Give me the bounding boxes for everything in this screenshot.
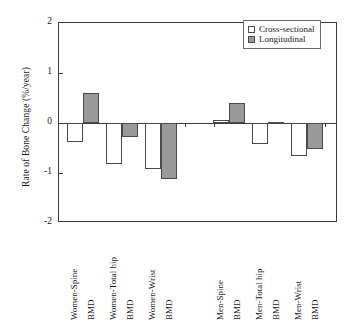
bar-longitudinal-4: [268, 122, 284, 124]
bar-cross-sectional-3: [213, 120, 229, 123]
x-category-label: BMD: [165, 299, 174, 320]
x-tick-mark: [185, 123, 186, 127]
y-tick-label: 1: [0, 67, 52, 77]
bar-cross-sectional-5: [291, 123, 307, 156]
x-category-label: BMD: [126, 299, 135, 320]
x-tick-mark: [214, 123, 215, 127]
y-tick-label: 2: [0, 17, 52, 27]
legend-label-cross-sectional: Cross-sectional: [259, 25, 315, 34]
x-category-label: BMD: [233, 299, 242, 320]
bar-longitudinal-1: [122, 123, 138, 137]
y-tick-mark: [59, 173, 63, 174]
y-tick-label: 0: [0, 117, 52, 127]
bar-longitudinal-5: [307, 123, 323, 149]
legend-item-longitudinal: Longitudinal: [248, 35, 315, 44]
bar-longitudinal-3: [229, 103, 245, 123]
x-tick-mark: [325, 123, 326, 127]
x-category-label: Women-Wrist: [148, 270, 157, 320]
x-category-label: Women-Spine: [70, 269, 79, 320]
y-axis-title: Rate of Bone Change (%/year): [21, 27, 31, 227]
cross-sectional-swatch: [248, 26, 255, 33]
x-category-label: BMD: [272, 299, 281, 320]
x-category-label: BMD: [87, 299, 96, 320]
bar-cross-sectional-4: [252, 123, 268, 144]
bar-longitudinal-0: [83, 93, 99, 123]
longitudinal-swatch: [248, 36, 255, 43]
x-category-label: Women-Total hip: [109, 257, 118, 320]
legend-label-longitudinal: Longitudinal: [259, 35, 306, 44]
bar-cross-sectional-1: [106, 123, 122, 164]
x-category-label: Men-Wrist: [294, 281, 303, 320]
bone-change-bar-chart: Rate of Bone Change (%/year) 210-1-2 Wom…: [0, 0, 352, 325]
x-category-label: Men-Spine: [216, 280, 225, 320]
chart-legend: Cross-sectional Longitudinal: [243, 20, 321, 49]
y-tick-mark: [59, 73, 63, 74]
y-tick-label: -2: [0, 217, 52, 227]
y-tick-mark: [59, 123, 63, 124]
legend-item-cross-sectional: Cross-sectional: [248, 25, 315, 34]
x-category-label: BMD: [311, 299, 320, 320]
y-tick-label: -1: [0, 167, 52, 177]
bar-cross-sectional-2: [145, 123, 161, 169]
bar-longitudinal-2: [161, 123, 177, 179]
x-category-label: Men-Total hip: [255, 268, 264, 320]
bar-cross-sectional-0: [67, 123, 83, 142]
plot-area: [58, 22, 337, 222]
